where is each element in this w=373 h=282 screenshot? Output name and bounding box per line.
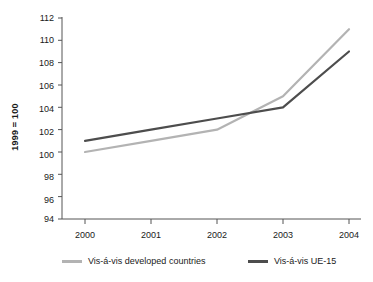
line-chart: 1999 = 100 112 110 108 106 104 102 100 9… bbox=[0, 0, 373, 282]
x-axis-ticks bbox=[85, 219, 349, 224]
x-tick-label: 2000 bbox=[65, 231, 105, 240]
legend-item-label: Vis-á-vis UE-15 bbox=[274, 256, 336, 266]
x-tick-label: 2001 bbox=[131, 231, 171, 240]
plot-area bbox=[0, 0, 373, 282]
series-line-ue-15 bbox=[85, 52, 349, 141]
chart-legend: Vis-á-vis developed countries Vis-á-vis … bbox=[0, 252, 373, 274]
x-tick-label: 2003 bbox=[263, 231, 303, 240]
legend-item-developed-countries[interactable]: Vis-á-vis developed countries bbox=[62, 252, 205, 270]
x-tick-label: 2004 bbox=[329, 231, 369, 240]
legend-item-ue-15[interactable]: Vis-á-vis UE-15 bbox=[248, 252, 336, 270]
x-tick-label: 2002 bbox=[197, 231, 237, 240]
legend-swatch-icon bbox=[248, 260, 268, 263]
legend-swatch-icon bbox=[62, 260, 82, 263]
y-axis-ticks bbox=[58, 18, 62, 219]
legend-item-label: Vis-á-vis developed countries bbox=[88, 256, 205, 266]
